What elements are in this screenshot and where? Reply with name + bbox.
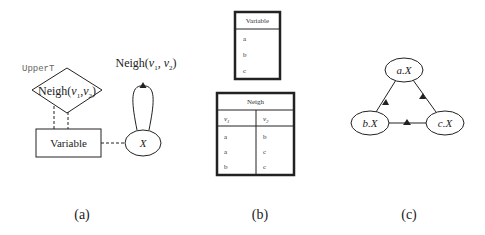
node-c-x-label: c.X bbox=[438, 117, 454, 129]
self-loop-edge bbox=[133, 86, 153, 130]
neigh-table-cell: b bbox=[263, 133, 267, 141]
variable-entity-label: Variable bbox=[50, 137, 87, 149]
variable-table: Variable a b c bbox=[235, 12, 280, 79]
edge-b-a bbox=[376, 80, 396, 112]
self-loop-arrowhead-icon bbox=[140, 82, 147, 88]
neigh-table-header: Neigh bbox=[247, 98, 265, 106]
caption-b: (b) bbox=[252, 207, 269, 223]
attribute-x-label: X bbox=[139, 137, 148, 149]
variable-table-header: Variable bbox=[246, 17, 269, 25]
neigh-table: Neigh v1 v2 a b a c b c bbox=[217, 93, 294, 175]
node-b-x-label: b.X bbox=[363, 117, 379, 129]
node-a-x-label: a.X bbox=[397, 64, 413, 76]
loop-label: Neigh(v1, v2) bbox=[116, 56, 177, 72]
neigh-table-cell: c bbox=[263, 148, 266, 156]
caption-c: (c) bbox=[401, 207, 417, 223]
variable-table-row: b bbox=[243, 51, 247, 59]
arrowhead-icon bbox=[403, 119, 411, 125]
panel-b: Variable a b c Neigh v1 v2 a b a c b c (… bbox=[217, 12, 294, 223]
uppert-label: UpperT bbox=[22, 64, 55, 74]
figure-canvas: UpperT Neigh(v1,v2) Variable X Neigh(v1,… bbox=[0, 0, 485, 235]
neigh-table-cell: c bbox=[263, 163, 266, 171]
variable-table-row: c bbox=[243, 67, 246, 75]
diamond-label: Neigh(v1,v2) bbox=[38, 84, 96, 100]
neigh-table-cell: b bbox=[224, 163, 228, 171]
panel-c: a.X b.X c.X (c) bbox=[351, 58, 464, 223]
caption-a: (a) bbox=[74, 207, 90, 223]
panel-a: UpperT Neigh(v1,v2) Variable X Neigh(v1,… bbox=[22, 56, 176, 223]
